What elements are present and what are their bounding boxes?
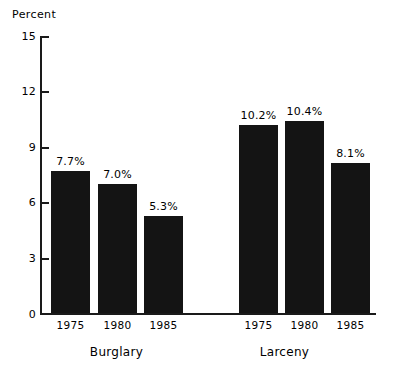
y-tick-mark-12 bbox=[42, 91, 49, 93]
x-tick-label-larceny-1980: 1980 bbox=[279, 319, 330, 331]
bar-burglary-1985 bbox=[144, 216, 183, 313]
bar-value-larceny-1985: 8.1% bbox=[325, 147, 376, 160]
y-tick-mark-6 bbox=[42, 202, 49, 204]
bar-burglary-1975 bbox=[51, 171, 90, 313]
y-tick-label-15: 15 bbox=[8, 30, 36, 43]
bar-larceny-1975 bbox=[239, 125, 278, 313]
y-tick-mark-15 bbox=[42, 36, 49, 38]
x-axis-line bbox=[40, 313, 376, 315]
bar-larceny-1985 bbox=[331, 163, 370, 313]
y-tick-label-0: 0 bbox=[8, 308, 36, 321]
group-label-burglary: Burglary bbox=[66, 345, 167, 359]
y-axis-title: Percent bbox=[12, 8, 56, 21]
bar-chart: Percent 15 12 9 6 3 0 7.7% 1975 7.0% 198… bbox=[0, 0, 394, 375]
bar-burglary-1980 bbox=[98, 184, 137, 313]
bar-value-larceny-1980: 10.4% bbox=[277, 105, 332, 118]
x-tick-label-burglary-1980: 1980 bbox=[92, 319, 143, 331]
bar-value-burglary-1975: 7.7% bbox=[45, 155, 96, 168]
group-label-larceny: Larceny bbox=[234, 345, 335, 359]
y-tick-label-12: 12 bbox=[8, 85, 36, 98]
y-tick-mark-3 bbox=[42, 258, 49, 260]
x-tick-label-burglary-1975: 1975 bbox=[45, 319, 96, 331]
bar-larceny-1980 bbox=[285, 121, 324, 313]
y-tick-label-9: 9 bbox=[8, 141, 36, 154]
bar-value-burglary-1985: 5.3% bbox=[138, 200, 189, 213]
bar-value-burglary-1980: 7.0% bbox=[92, 168, 143, 181]
y-axis-line bbox=[40, 36, 42, 315]
x-tick-label-burglary-1985: 1985 bbox=[138, 319, 189, 331]
y-tick-label-3: 3 bbox=[8, 252, 36, 265]
x-tick-label-larceny-1985: 1985 bbox=[325, 319, 376, 331]
y-tick-label-6: 6 bbox=[8, 196, 36, 209]
y-tick-mark-9 bbox=[42, 147, 49, 149]
x-tick-label-larceny-1975: 1975 bbox=[233, 319, 284, 331]
